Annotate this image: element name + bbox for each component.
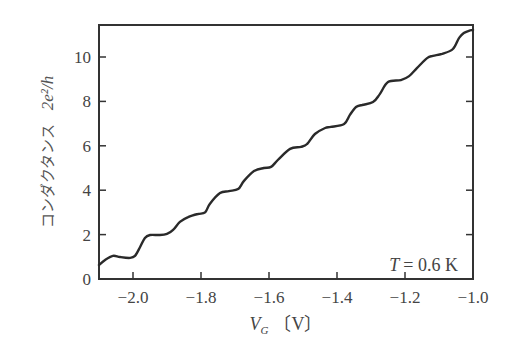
y-tick-label: 8 [83,92,92,111]
conductance-curve [99,30,473,265]
x-tick-label: −2.0 [118,288,149,307]
y-tick-label: 10 [74,48,91,67]
x-tick-label: −1.0 [458,288,489,307]
y-tick-label: 4 [83,181,92,200]
annotation-temperature: T= 0.6 K [389,255,458,275]
x-tick-label: −1.2 [390,288,421,307]
y-tick-label: 0 [83,270,92,289]
y-tick-label: 2 [83,226,92,245]
x-tick-label: −1.6 [254,288,285,307]
x-axis-label: VG〔V〕 [250,314,323,336]
y-axis-ticks: 0246810 [74,48,473,289]
x-axis-ticks: −2.0−1.8−1.6−1.4−1.2−1.0 [118,272,489,307]
x-tick-label: −1.4 [322,288,353,307]
x-tick-label: −1.8 [186,288,217,307]
chart: −2.0−1.8−1.6−1.4−1.2−1.0 0246810 T= 0.6 … [0,0,515,352]
series-line-conductance [99,30,473,265]
y-axis-label: コンダクタンス2e²/h [38,76,57,228]
y-tick-label: 6 [83,137,92,156]
